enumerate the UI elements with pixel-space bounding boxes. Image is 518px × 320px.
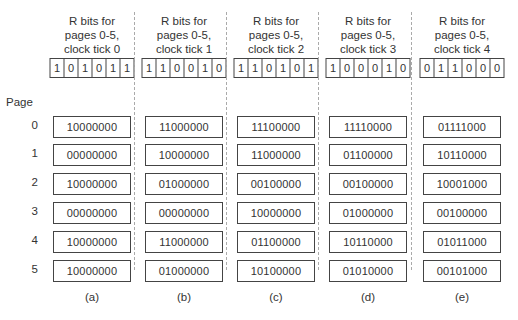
r-bit-cell: 1 <box>235 59 248 77</box>
aging-counter-box: 00000000 <box>53 144 131 166</box>
page-number-label: 4 <box>28 234 38 246</box>
aging-counter-box: 10110000 <box>329 231 407 253</box>
r-bit-cell: 1 <box>198 59 212 77</box>
r-bit-cell: 1 <box>304 59 318 77</box>
column-title: R bits forpages 0-5,clock tick 3 <box>320 14 416 56</box>
column-title: R bits forpages 0-5,clock tick 1 <box>136 14 232 56</box>
aging-counter-box: 10110000 <box>423 144 501 166</box>
aging-counter-box: 11110000 <box>329 116 407 138</box>
r-bit-cell: 1 <box>276 59 290 77</box>
aging-counter-box: 00101000 <box>423 260 501 282</box>
column-divider <box>226 12 227 270</box>
aging-counter-box: 01100000 <box>329 144 407 166</box>
r-bit-cell: 0 <box>290 59 304 77</box>
r-bit-cell: 0 <box>212 59 226 77</box>
column-caption: (b) <box>136 291 232 303</box>
column-title: R bits forpages 0-5,clock tick 2 <box>228 14 324 56</box>
r-bit-cell: 1 <box>327 59 340 77</box>
aging-counter-box: 01010000 <box>329 260 407 282</box>
r-bit-cell: 0 <box>184 59 198 77</box>
column-title-line: R bits for <box>320 14 416 28</box>
r-bit-cell: 1 <box>156 59 170 77</box>
r-bit-cell: 1 <box>143 59 156 77</box>
clock-tick-column: R bits forpages 0-5,clock tick 211010111… <box>228 0 324 320</box>
column-title-line: R bits for <box>414 14 510 28</box>
column-divider <box>318 12 319 270</box>
aging-counter-box: 10001000 <box>423 173 501 195</box>
clock-tick-column: R bits forpages 0-5,clock tick 310001011… <box>320 0 416 320</box>
r-bits-register: 110101 <box>234 58 319 78</box>
r-bit-cell: 1 <box>434 59 448 77</box>
r-bit-cell: 0 <box>262 59 276 77</box>
page-number-label: 2 <box>28 176 38 188</box>
r-bit-cell: 1 <box>248 59 262 77</box>
column-caption: (d) <box>320 291 416 303</box>
aging-counter-box: 01000000 <box>329 202 407 224</box>
column-title-line: pages 0-5, <box>136 28 232 42</box>
column-divider <box>411 12 412 270</box>
column-title-line: R bits for <box>44 14 140 28</box>
column-title-line: R bits for <box>136 14 232 28</box>
r-bit-cell: 1 <box>382 59 396 77</box>
aging-counter-box: 01000000 <box>145 260 223 282</box>
column-title: R bits forpages 0-5,clock tick 0 <box>44 14 140 56</box>
r-bit-cell: 0 <box>462 59 476 77</box>
aging-counter-box: 00000000 <box>145 202 223 224</box>
r-bit-cell: 0 <box>354 59 368 77</box>
aging-counter-box: 00100000 <box>237 173 315 195</box>
page-number-label: 5 <box>28 263 38 275</box>
column-title: R bits forpages 0-5,clock tick 4 <box>414 14 510 56</box>
column-caption: (e) <box>414 291 510 303</box>
aging-counter-box: 10000000 <box>53 173 131 195</box>
r-bit-cell: 0 <box>92 59 106 77</box>
aging-counter-box: 10000000 <box>53 116 131 138</box>
r-bits-register: 101011 <box>50 58 135 78</box>
r-bit-cell: 0 <box>396 59 410 77</box>
r-bit-cell: 1 <box>51 59 64 77</box>
aging-counter-box: 11000000 <box>145 231 223 253</box>
page-number-label: 1 <box>28 147 38 159</box>
column-caption: (c) <box>228 291 324 303</box>
r-bit-cell: 1 <box>78 59 92 77</box>
clock-tick-column: R bits forpages 0-5,clock tick 401100001… <box>414 0 510 320</box>
aging-counter-box: 00000000 <box>53 202 131 224</box>
r-bit-cell: 0 <box>476 59 490 77</box>
r-bit-cell: 0 <box>421 59 434 77</box>
aging-counter-box: 00100000 <box>329 173 407 195</box>
r-bit-cell: 0 <box>64 59 78 77</box>
r-bits-register: 011000 <box>420 58 505 78</box>
column-title-line: clock tick 4 <box>414 42 510 56</box>
aging-counter-box: 10000000 <box>145 144 223 166</box>
aging-counter-box: 01111000 <box>423 116 501 138</box>
r-bits-register: 110010 <box>142 58 227 78</box>
column-caption: (a) <box>44 291 140 303</box>
page-column-header: Page <box>6 96 33 108</box>
column-title-line: clock tick 1 <box>136 42 232 56</box>
r-bit-cell: 0 <box>340 59 354 77</box>
r-bit-cell: 0 <box>170 59 184 77</box>
aging-counter-box: 00100000 <box>423 202 501 224</box>
column-title-line: pages 0-5, <box>320 28 416 42</box>
column-title-line: clock tick 3 <box>320 42 416 56</box>
aging-counter-box: 10000000 <box>53 231 131 253</box>
r-bit-cell: 1 <box>120 59 134 77</box>
r-bits-register: 100010 <box>326 58 411 78</box>
aging-counter-box: 11100000 <box>237 116 315 138</box>
aging-counter-box: 01011000 <box>423 231 501 253</box>
column-title-line: pages 0-5, <box>228 28 324 42</box>
aging-counter-box: 01000000 <box>145 173 223 195</box>
aging-counter-box: 10100000 <box>237 260 315 282</box>
r-bit-cell: 0 <box>490 59 504 77</box>
clock-tick-column: R bits forpages 0-5,clock tick 010101110… <box>44 0 140 320</box>
column-title-line: pages 0-5, <box>414 28 510 42</box>
aging-counter-box: 10000000 <box>53 260 131 282</box>
column-title-line: R bits for <box>228 14 324 28</box>
aging-counter-box: 11000000 <box>237 144 315 166</box>
aging-counter-box: 11000000 <box>145 116 223 138</box>
aging-counter-box: 01100000 <box>237 231 315 253</box>
r-bit-cell: 1 <box>106 59 120 77</box>
column-divider <box>134 12 135 270</box>
r-bit-cell: 1 <box>448 59 462 77</box>
column-title-line: pages 0-5, <box>44 28 140 42</box>
page-number-label: 0 <box>28 119 38 131</box>
